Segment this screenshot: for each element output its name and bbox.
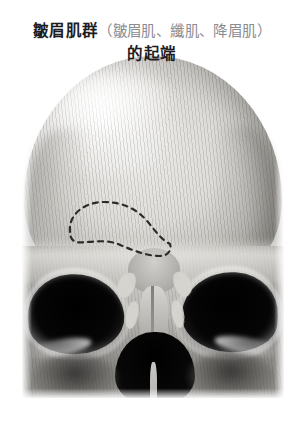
photo-edge-fade-bottom xyxy=(22,382,284,398)
skull-photograph xyxy=(22,10,284,398)
photo-canvas xyxy=(22,10,284,398)
photo-edge-fade-right xyxy=(274,10,284,398)
figure-page: 皺眉肌群（皺眉肌、纖肌、降眉肌） 的起端 xyxy=(0,0,304,427)
photo-edge-fade-left xyxy=(22,10,32,398)
